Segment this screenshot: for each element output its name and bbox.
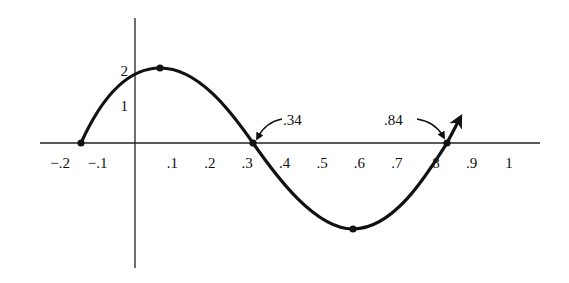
x-tick-label: −.2: [50, 155, 70, 171]
y-tick-label: 2: [121, 63, 129, 79]
x-tick-label: .9: [466, 155, 477, 171]
sine-curve: [81, 68, 458, 229]
x-tick-label: .2: [204, 155, 215, 171]
y-tick-labels: 21: [121, 63, 129, 114]
annotation-034: .34: [283, 112, 302, 128]
annotation-084: .84: [384, 112, 403, 128]
sine-graph: −.2−.1.1.2.3.4.5.6.7.8.91 21 .34 .84: [0, 0, 569, 283]
point-zero-084: [443, 139, 450, 146]
point-maximum: [156, 64, 163, 71]
x-tick-label: .7: [391, 155, 403, 171]
point-start-zero: [77, 139, 84, 146]
x-tick-label: .5: [316, 155, 327, 171]
x-tick-labels: −.2−.1.1.2.3.4.5.6.7.8.91: [50, 155, 512, 171]
annotation-084-arrow-icon: [417, 119, 443, 136]
x-tick-label: .1: [167, 155, 178, 171]
x-tick-label: .3: [242, 155, 253, 171]
x-tick-label: −.1: [88, 155, 108, 171]
point-zero-034: [249, 139, 256, 146]
annotation-034-arrow-icon: [258, 119, 282, 137]
point-minimum: [349, 225, 356, 232]
x-tick-label: .6: [354, 155, 366, 171]
x-tick-label: .4: [279, 155, 291, 171]
x-tick-label: 1: [505, 155, 513, 171]
y-tick-label: 1: [121, 98, 129, 114]
